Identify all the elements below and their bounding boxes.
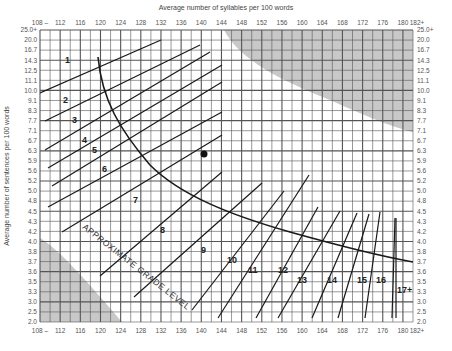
sample-point — [201, 151, 208, 158]
x-tick-label: 108 – — [32, 327, 49, 334]
y-tick-label: 3.7 — [417, 258, 426, 265]
y-tick-label: 5.9 — [28, 157, 37, 164]
grade-label-14: 14 — [327, 275, 337, 285]
x-axis-title: Average number of syllables per 100 word… — [159, 4, 294, 12]
y-tick-label: 4.2 — [28, 228, 37, 235]
y-tick-label: 14.3 — [417, 57, 430, 64]
grade-label-10: 10 — [227, 255, 237, 265]
y-tick-label: 3.6 — [28, 268, 37, 275]
y-tick-label: 4.0 — [417, 238, 426, 245]
y-tick-label: 4.3 — [28, 218, 37, 225]
y-tick-label: 6.7 — [417, 137, 426, 144]
y-tick-label: 14.3 — [24, 57, 37, 64]
x-tick-label: 116 — [75, 327, 86, 334]
x-tick-label: 132 — [156, 19, 167, 26]
grade-line-5 — [52, 82, 222, 186]
y-tick-label: 7.7 — [28, 117, 37, 124]
y-tick-label: 4.0 — [28, 238, 37, 245]
y-ticks-right: 25.0+20.016.714.312.511.110.09.18.37.77.… — [417, 26, 434, 325]
y-tick-label: 5.6 — [417, 167, 426, 174]
x-tick-label: 152 — [256, 19, 267, 26]
x-tick-label: 116 — [75, 19, 86, 26]
y-tick-label: 3.7 — [28, 258, 37, 265]
x-tick-label: 152 — [256, 327, 267, 334]
x-tick-label: 182+ — [410, 327, 425, 334]
x-tick-label: 160 — [297, 19, 308, 26]
y-tick-label: 12.5 — [417, 67, 430, 74]
y-ticks-left: 25.0+20.016.714.312.511.110.09.18.37.77.… — [21, 26, 38, 325]
y-tick-label: 6.3 — [28, 147, 37, 154]
grade-label-7: 7 — [133, 195, 138, 205]
y-tick-label: 16.7 — [24, 46, 37, 53]
y-tick-label: 7.1 — [417, 127, 426, 134]
x-tick-label: 176 — [377, 327, 388, 334]
y-tick-label: 20.0 — [417, 36, 430, 43]
y-tick-label: 4.2 — [417, 228, 426, 235]
y-tick-label: 5.0 — [417, 187, 426, 194]
y-tick-label: 3.8 — [28, 248, 37, 255]
x-tick-label: 148 — [236, 19, 247, 26]
x-tick-label: 144 — [216, 327, 227, 334]
x-tick-label: 140 — [196, 19, 207, 26]
y-tick-label: 16.7 — [417, 46, 430, 53]
x-tick-label: 168 — [337, 327, 348, 334]
x-tick-label: 136 — [176, 19, 187, 26]
y-tick-label: 5.2 — [417, 177, 426, 184]
y-tick-label: 11.1 — [417, 77, 430, 84]
y-tick-label: 3.0 — [417, 298, 426, 305]
y-tick-label: 5.9 — [417, 157, 426, 164]
x-tick-label: 156 — [277, 19, 288, 26]
y-tick-label: 2.0 — [28, 318, 37, 325]
y-tick-label: 5.6 — [28, 167, 37, 174]
x-tick-label: 160 — [297, 327, 308, 334]
grade-label-15: 15 — [357, 275, 367, 285]
x-tick-label: 124 — [115, 19, 126, 26]
grade-label-12: 12 — [278, 265, 288, 275]
x-tick-label: 156 — [277, 327, 288, 334]
y-tick-label: 6.7 — [28, 137, 37, 144]
y-tick-label: 5.2 — [28, 177, 37, 184]
x-tick-label: 108 – — [32, 19, 49, 26]
grade-label-11: 11 — [248, 265, 258, 275]
y-tick-label: 4.8 — [28, 197, 37, 204]
x-tick-label: 128 — [135, 327, 146, 334]
x-tick-label: 176 — [377, 19, 388, 26]
x-ticks-bottom: 108 –11211612012412813213614014414815215… — [32, 327, 425, 334]
y-tick-label: 9.1 — [28, 97, 37, 104]
y-tick-label: 3.3 — [28, 288, 37, 295]
y-tick-label: 3.0 — [28, 298, 37, 305]
grade-label-13: 13 — [297, 275, 307, 285]
x-tick-label: 172 — [357, 19, 368, 26]
y-tick-label: 4.3 — [417, 218, 426, 225]
y-axis-title: Average number of sentences per 100 word… — [3, 106, 11, 246]
y-tick-label: 25.0+ — [417, 26, 434, 33]
y-tick-label: 2.5 — [28, 308, 37, 315]
y-tick-label: 6.3 — [417, 147, 426, 154]
grade-label-16: 16 — [376, 275, 386, 285]
x-tick-label: 180 — [397, 327, 408, 334]
y-tick-label: 3.6 — [417, 268, 426, 275]
fry-readability-graph: Average number of syllables per 100 word… — [0, 0, 452, 351]
shaded-region-upper-right — [224, 30, 413, 132]
grade-label-2: 2 — [63, 95, 68, 105]
y-tick-label: 8.3 — [28, 107, 37, 114]
x-tick-label: 148 — [236, 327, 247, 334]
x-tick-label: 132 — [156, 327, 167, 334]
y-tick-label: 9.1 — [417, 97, 426, 104]
grade-line-17 — [392, 218, 395, 318]
y-tick-label: 3.8 — [417, 248, 426, 255]
y-tick-label: 10.0 — [417, 87, 430, 94]
grade-label-5: 5 — [92, 145, 97, 155]
grade-label-3: 3 — [72, 115, 77, 125]
x-tick-label: 172 — [357, 327, 368, 334]
y-tick-label: 5.0 — [28, 187, 37, 194]
y-tick-label: 10.0 — [24, 87, 37, 94]
grade-label-17: 17+ — [397, 285, 412, 295]
y-tick-label: 2.5 — [417, 308, 426, 315]
x-tick-label: 140 — [196, 327, 207, 334]
x-tick-label: 144 — [216, 19, 227, 26]
grade-line-6 — [48, 112, 222, 207]
y-tick-label: 2.0 — [417, 318, 426, 325]
grade-label-1: 1 — [65, 55, 70, 65]
y-tick-label: 12.5 — [24, 67, 37, 74]
